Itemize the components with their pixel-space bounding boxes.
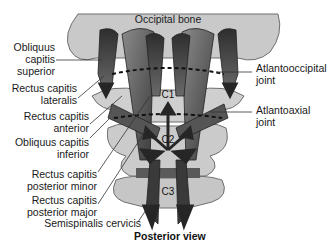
label-line: Atlantooccipital: [256, 62, 327, 74]
figure-caption: Posterior view: [134, 230, 206, 242]
label-line: superior: [14, 65, 55, 77]
label-obliquus-capitis-superior: Obliquus capitis superior: [14, 41, 55, 77]
label-line: posterior minor: [27, 180, 97, 192]
label-rectus-capitis-anterior: Rectus capitis anterior: [24, 110, 89, 134]
label-rectus-capitis-posterior-major: Rectus capitis posterior major: [27, 194, 97, 218]
label-c1: C1: [162, 89, 175, 100]
label-line: Rectus capitis: [27, 168, 97, 180]
label-occipital-bone: Occipital bone: [135, 13, 202, 25]
label-atlantoaxial-joint: Atlantoaxial joint: [256, 104, 310, 128]
label-rectus-capitis-lateralis: Rectus capitis lateralis: [12, 82, 77, 106]
label-line: joint: [256, 74, 327, 86]
label-line: Rectus capitis: [24, 110, 89, 122]
label-line: anterior: [24, 122, 89, 134]
label-c2: C2: [162, 134, 175, 145]
label-line: capitis: [14, 53, 55, 65]
label-atlantooccipital-joint: Atlantooccipital joint: [256, 62, 327, 86]
label-rectus-capitis-posterior-minor: Rectus capitis posterior minor: [27, 168, 97, 192]
label-line: Obliquus: [14, 41, 55, 53]
label-c3: C3: [162, 186, 175, 197]
label-obliquus-capitis-inferior: Obliquus capitis inferior: [15, 136, 89, 160]
label-line: inferior: [15, 148, 89, 160]
label-line: Rectus capitis: [12, 82, 77, 94]
label-line: Semispinalis cervicis: [44, 217, 141, 229]
label-line: Atlantoaxial: [256, 104, 310, 116]
label-line: joint: [256, 116, 310, 128]
label-line: Rectus capitis: [27, 194, 97, 206]
label-line: lateralis: [12, 94, 77, 106]
label-line: Obliquus capitis: [15, 136, 89, 148]
anatomy-figure: C1 C2 C3 Occipital bone Obliquus capitis…: [0, 0, 334, 244]
label-semispinalis-cervicis: Semispinalis cervicis: [44, 217, 141, 229]
